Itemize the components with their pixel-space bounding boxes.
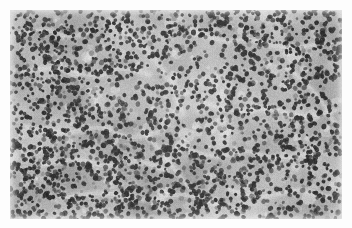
micrograph-viewport bbox=[0, 0, 352, 228]
figure-caption bbox=[10, 220, 342, 228]
tissue-canvas bbox=[10, 10, 342, 219]
histopathology-micrograph-field bbox=[10, 10, 342, 219]
